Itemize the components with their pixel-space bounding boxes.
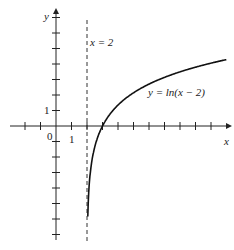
origin-label: 0	[47, 130, 53, 142]
x-arrow-icon	[226, 123, 232, 129]
plot-area: y x 0 1 1 x = 2 y = ln(x − 2)	[0, 0, 234, 250]
y-arrow-icon	[53, 8, 59, 14]
asymptote-label: x = 2	[89, 36, 114, 48]
y-axis-label: y	[43, 10, 49, 22]
y-one-label: 1	[44, 104, 50, 116]
x-one-label: 1	[69, 133, 75, 145]
curve	[88, 60, 227, 217]
x-axis-label: x	[223, 135, 229, 147]
graph: y x 0 1 1 x = 2 y = ln(x − 2)	[0, 0, 234, 250]
curve-label: y = ln(x − 2)	[147, 86, 205, 99]
